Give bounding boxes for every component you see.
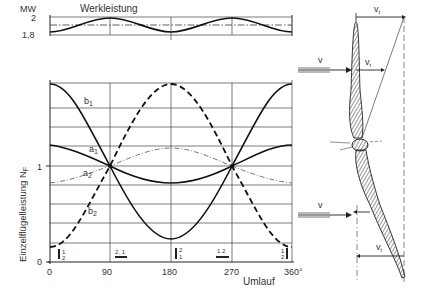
label-vt-bottom: vt	[376, 242, 383, 253]
main-ytick-0: 0	[37, 257, 42, 267]
xtick-180: 180	[162, 267, 177, 277]
top-plot: MW Werkleistung 2 1,8	[20, 3, 292, 40]
wind-arrow-bottom: v	[298, 200, 352, 218]
label-a2: a2	[83, 168, 92, 179]
svg-text:2: 2	[179, 247, 183, 253]
position-marker-360: 1 2	[281, 248, 288, 260]
label-vt-top: vt	[374, 4, 381, 15]
svg-text:2, 1: 2, 1	[115, 249, 126, 255]
main-ylabel: Einzelflügelleistung NF	[17, 167, 29, 262]
top-ytick-2: 2	[31, 13, 36, 23]
svg-text:v: v	[318, 55, 323, 65]
svg-text:Einzelflügelleistung NF: Einzelflügelleistung NF	[17, 167, 29, 262]
upper-blade	[350, 22, 363, 138]
position-marker-180: 2 1	[175, 247, 183, 260]
svg-text:2: 2	[281, 254, 285, 260]
top-plot-title: Werkleistung	[80, 3, 138, 14]
xtick-90: 90	[102, 267, 112, 277]
svg-text:1: 1	[179, 254, 183, 260]
figure: MW Werkleistung 2 1,8	[0, 0, 426, 295]
ylabel-text: Einzelflügelleistung N	[17, 171, 28, 262]
xtick-0: 0	[47, 267, 52, 277]
svg-text:1 2: 1 2	[217, 248, 226, 254]
top-ytick-1-8: 1,8	[22, 30, 35, 40]
velocity-diagonal	[362, 17, 404, 138]
svg-text:v: v	[318, 200, 323, 210]
intersection-270	[230, 164, 234, 168]
xtick-270: 270	[224, 267, 239, 277]
intersection-90	[108, 164, 112, 168]
position-marker-90: 2, 1	[115, 249, 127, 258]
label-b2: b2	[88, 206, 97, 217]
lower-blade	[356, 150, 405, 278]
rotor-hub	[352, 139, 368, 151]
xtick-360: 360°	[284, 267, 303, 277]
ylabel-subscript: F	[22, 167, 29, 171]
label-b1: b1	[84, 96, 93, 107]
label-vt-mid: vt	[365, 57, 372, 68]
main-ytick-1: 1	[37, 162, 42, 172]
position-marker-270: 1 2	[216, 248, 229, 258]
main-plot: 1 0 Einzelflügelleistung NF 0 90 180 270…	[17, 80, 303, 287]
main-xlabel: Umlauf	[243, 276, 275, 287]
rotor-drawing: vt vt vt	[330, 4, 406, 282]
svg-text:2: 2	[62, 255, 66, 261]
position-marker-0: 1 2	[58, 249, 66, 261]
wind-arrow-top: v	[298, 55, 352, 73]
